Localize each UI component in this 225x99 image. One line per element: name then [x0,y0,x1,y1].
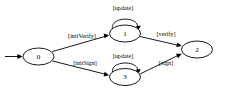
state-node-0[interactable]: 0 [23,48,54,65]
state-diagram: 0 1 2 3 [initVerify] [initSign] [update]… [0,0,225,99]
transition-label-verify: [verify] [157,30,176,37]
state-node-2[interactable]: 2 [182,41,213,58]
state-2-label: 2 [195,46,199,54]
initial-arrowhead [17,54,22,59]
transition-1-to-2-arrowhead [176,42,182,47]
transition-label-update-state-1: [update] [113,4,134,11]
transition-label-initsign: [initSign] [73,59,97,66]
transition-0-to-3-arrowhead [104,72,110,77]
transition-0-to-1-arrowhead [104,34,110,39]
transition-label-initverify: [initVerify] [68,32,96,39]
state-1-label: 1 [123,30,127,38]
transition-1-to-2[interactable] [140,37,182,48]
transition-label-update-state-3: [update] [113,52,134,59]
initial-state-arrow [5,54,23,59]
state-3-label: 3 [123,73,127,81]
state-node-3[interactable]: 3 [110,69,141,86]
state-node-1[interactable]: 1 [110,25,141,42]
state-diagram-canvas: 0 1 2 3 [initVerify] [initSign] [update]… [0,0,225,99]
transition-label-sign: [sign] [159,59,173,66]
state-0-label: 0 [37,53,41,61]
